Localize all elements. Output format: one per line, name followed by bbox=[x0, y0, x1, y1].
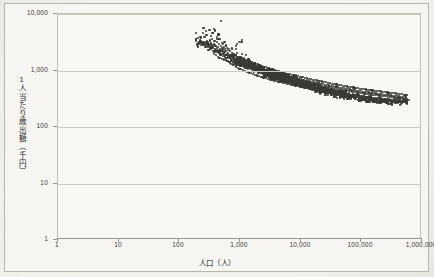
scatter-point bbox=[385, 101, 387, 103]
scatter-point bbox=[300, 77, 302, 79]
scatter-point bbox=[211, 32, 213, 34]
scatter-point bbox=[398, 100, 400, 102]
scatter-point bbox=[195, 32, 197, 34]
scatter-point bbox=[202, 32, 204, 34]
scatter-point bbox=[245, 54, 247, 56]
scatter-point bbox=[310, 83, 312, 85]
y-axis-tick-label: 10,000 bbox=[12, 9, 48, 16]
scatter-point bbox=[210, 35, 212, 37]
y-axis-tick bbox=[53, 13, 57, 14]
scatter-point bbox=[332, 91, 334, 93]
scatter-point bbox=[270, 74, 272, 76]
x-axis-tick-label: 100,000 bbox=[332, 241, 388, 248]
scatter-point bbox=[325, 89, 327, 91]
scatter-point bbox=[393, 100, 395, 102]
gridline-y bbox=[58, 14, 420, 15]
scatter-point bbox=[361, 98, 363, 100]
scatter-point bbox=[363, 97, 365, 99]
scatter-point bbox=[241, 53, 243, 55]
scatter-point bbox=[281, 76, 283, 78]
scatter-point bbox=[317, 84, 319, 86]
scatter-point bbox=[302, 82, 304, 84]
scatter-point bbox=[372, 101, 374, 103]
scatter-point bbox=[401, 101, 403, 103]
scatter-point bbox=[247, 68, 249, 70]
scatter-point bbox=[235, 48, 237, 50]
scatter-point bbox=[405, 102, 407, 104]
scatter-point bbox=[235, 45, 237, 47]
y-axis-tick-label: 1,000 bbox=[12, 66, 48, 73]
x-axis-title: 人口（人） bbox=[0, 257, 434, 268]
scatter-point bbox=[226, 60, 228, 62]
scatter-point bbox=[405, 94, 407, 96]
chart-page: 1人当たり歳出額（千円） 1101001,00010,0001101001,00… bbox=[0, 0, 434, 277]
scatter-point bbox=[254, 64, 256, 66]
scatter-point bbox=[314, 91, 316, 93]
scatter-point bbox=[231, 47, 233, 49]
x-axis-tick-label: 1,000 bbox=[211, 241, 267, 248]
scatter-point bbox=[206, 45, 208, 47]
y-axis-tick-label: 10 bbox=[12, 179, 48, 186]
scatter-point bbox=[353, 97, 355, 99]
scatter-point bbox=[202, 27, 204, 29]
scatter-point bbox=[366, 101, 368, 103]
x-axis-tick-label: 10 bbox=[90, 241, 146, 248]
scatter-point bbox=[204, 36, 206, 38]
scatter-point bbox=[249, 62, 251, 64]
scatter-point bbox=[327, 94, 329, 96]
scatter-point bbox=[405, 99, 407, 101]
x-axis-tick-label: 1,000,000 bbox=[393, 241, 434, 248]
x-axis-tick-label: 10,000 bbox=[272, 241, 328, 248]
scatter-point bbox=[316, 90, 318, 92]
scatter-point bbox=[296, 77, 298, 79]
scatter-point bbox=[197, 45, 199, 47]
scatter-point bbox=[213, 28, 215, 30]
scatter-point bbox=[307, 86, 309, 88]
scatter-point bbox=[293, 81, 295, 83]
plot-area bbox=[57, 13, 421, 239]
scatter-point bbox=[408, 99, 410, 101]
scatter-point bbox=[220, 20, 222, 22]
gridline-y bbox=[58, 127, 420, 128]
scatter-point bbox=[213, 50, 215, 52]
scatter-point bbox=[336, 97, 338, 99]
scatter-point bbox=[391, 103, 393, 105]
scatter-point bbox=[207, 49, 209, 51]
scatter-point bbox=[241, 61, 243, 63]
scatter-point bbox=[209, 29, 211, 31]
scatter-point bbox=[240, 41, 242, 43]
gridline-y bbox=[58, 184, 420, 185]
scatter-point bbox=[319, 92, 321, 94]
scatter-point bbox=[205, 30, 207, 32]
scatter-point bbox=[195, 38, 197, 40]
scatter-point bbox=[228, 54, 230, 56]
scatter-point bbox=[217, 33, 219, 35]
x-axis-tick-label: 1 bbox=[29, 241, 85, 248]
scatter-point bbox=[250, 67, 252, 69]
y-axis-tick bbox=[53, 183, 57, 184]
y-axis-tick bbox=[53, 126, 57, 127]
scatter-point bbox=[279, 79, 281, 81]
y-axis-tick-label: 100 bbox=[12, 122, 48, 129]
x-axis-tick-label: 100 bbox=[150, 241, 206, 248]
scatter-point bbox=[285, 81, 287, 83]
scatter-point bbox=[330, 93, 332, 95]
gridline-y bbox=[58, 71, 420, 72]
scatter-point bbox=[235, 61, 237, 63]
scatter-point bbox=[236, 43, 238, 45]
scatter-point bbox=[223, 41, 225, 43]
y-axis-tick bbox=[53, 70, 57, 71]
